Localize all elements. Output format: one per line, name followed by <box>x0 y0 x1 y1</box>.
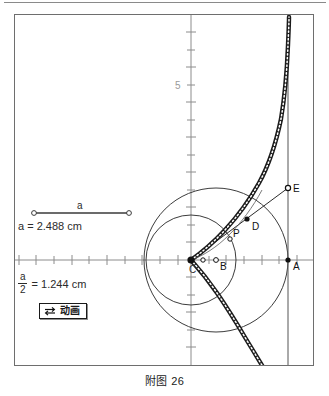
page-top-rule <box>4 2 326 3</box>
point-label-P: P <box>233 228 240 239</box>
point-label-E: E <box>293 183 300 194</box>
slider-handle-left[interactable] <box>32 211 37 216</box>
fraction-numerator: a <box>18 272 28 282</box>
point-B[interactable] <box>214 258 219 263</box>
y-axis-tick-label-5: 5 <box>175 80 181 91</box>
point-label-B: B <box>220 261 227 272</box>
fraction-a-over-2: a 2 <box>18 272 28 295</box>
fraction-denominator: 2 <box>18 285 28 295</box>
measurement-a[interactable]: a = 2.488 cm <box>18 220 82 232</box>
animate-button-label: 动画 <box>60 306 80 316</box>
measurement-a-over-2[interactable]: a 2 = 1.244 cm <box>18 272 86 295</box>
point-label-C: C <box>189 264 196 275</box>
slider-label-a: a <box>77 200 83 211</box>
slider-handle-right[interactable] <box>127 211 132 216</box>
figure-page: 5 a E D P B A C a = 2.488 cm a 2 = 1.244… <box>0 0 329 396</box>
point-label-D: D <box>252 221 259 232</box>
point-label-A: A <box>293 261 300 272</box>
vertex-point[interactable] <box>187 256 194 263</box>
animate-button[interactable]: 动画 <box>39 303 87 319</box>
point-E[interactable] <box>285 185 290 190</box>
point-A[interactable] <box>285 257 290 262</box>
measurement-a-over-2-value: = 1.244 cm <box>32 278 87 290</box>
point-P[interactable] <box>228 237 232 241</box>
point-D[interactable] <box>244 216 249 221</box>
point-focus[interactable] <box>201 258 205 262</box>
figure-caption: 附图 26 <box>0 372 329 388</box>
double-arrow-icon <box>44 306 56 316</box>
